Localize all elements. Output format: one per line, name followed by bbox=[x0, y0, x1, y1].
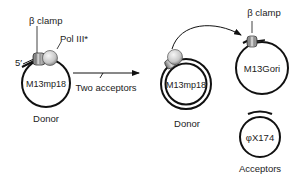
right-donor-caption: Donor bbox=[174, 118, 200, 129]
transfer-arrow bbox=[172, 26, 241, 49]
left-donor-group: β clamp Pol III* 5′ M13mp18 Donor bbox=[15, 15, 88, 124]
right-pol-iii-star-icon bbox=[168, 50, 183, 65]
acceptor-phix174-group: φX174 Acceptors bbox=[239, 112, 281, 175]
acceptor-beta-clamp-icon bbox=[247, 36, 257, 47]
five-prime-label: 5′ bbox=[15, 57, 22, 68]
left-donor-circle-label: M13mp18 bbox=[26, 79, 66, 89]
arrow-tick-mark bbox=[100, 73, 103, 78]
left-clamp-label: β clamp bbox=[29, 15, 62, 26]
acceptor-m13gori-group: β clamp M13Gori bbox=[236, 7, 288, 94]
acceptor-clamp-label: β clamp bbox=[247, 7, 280, 18]
phix174-label: φX174 bbox=[246, 132, 274, 143]
right-donor-group: M13mp18 Donor bbox=[161, 50, 211, 130]
phix174-primer bbox=[248, 112, 272, 115]
left-donor-caption: Donor bbox=[33, 113, 59, 124]
right-donor-circle-label: M13mp18 bbox=[166, 80, 206, 90]
m13gori-primer-3prime bbox=[257, 40, 265, 41]
reaction-arrow-group: Two acceptors bbox=[73, 73, 139, 93]
pol-label: Pol III* bbox=[60, 33, 88, 44]
clamp-transfer-diagram: β clamp Pol III* 5′ M13mp18 Donor Two ac… bbox=[0, 0, 297, 179]
acceptors-caption: Acceptors bbox=[239, 163, 281, 174]
two-acceptors-label: Two acceptors bbox=[75, 82, 136, 93]
m13gori-label: M13Gori bbox=[244, 63, 280, 74]
pol-iii-star-icon bbox=[43, 51, 58, 66]
